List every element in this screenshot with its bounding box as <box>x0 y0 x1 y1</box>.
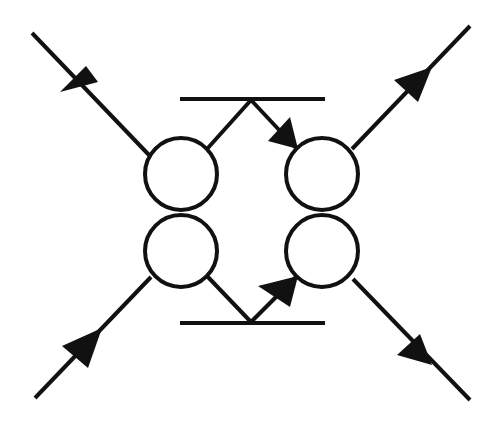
outgoing-bottom-right-line <box>353 279 470 400</box>
vertex-circles <box>145 138 358 287</box>
top-left-circle <box>145 138 217 210</box>
diagram-canvas <box>0 0 504 425</box>
diagram-svg <box>0 0 504 425</box>
top-left-to-top-vertex-line <box>207 100 251 149</box>
top-right-circle <box>286 138 358 210</box>
incoming-top-left-line <box>32 33 149 155</box>
bottom-left-to-bottom-vertex-line <box>207 276 251 322</box>
vertex-bars <box>180 99 325 323</box>
bottom-right-circle <box>286 215 358 287</box>
bottom-left-circle <box>145 215 217 287</box>
arrow-bottom-right-junction-icon <box>258 276 298 307</box>
arrow-outgoing-bottom-right-icon <box>397 334 432 365</box>
